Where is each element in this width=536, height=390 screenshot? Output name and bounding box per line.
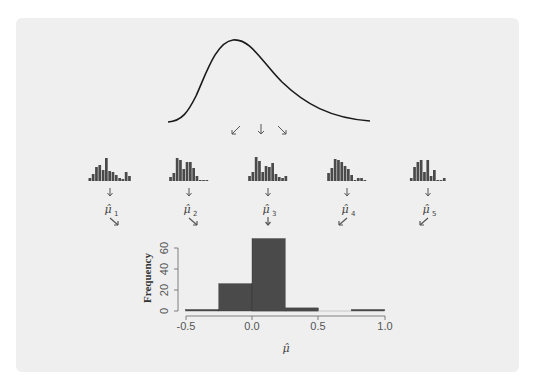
estimate-label: μ̂ xyxy=(341,203,348,216)
arrow-down-right-icon xyxy=(110,218,118,225)
arrow-down-icon xyxy=(266,217,271,225)
arrow-down-right-icon xyxy=(278,126,286,134)
sample-histogram xyxy=(410,160,446,181)
bar xyxy=(92,174,95,181)
bar xyxy=(199,180,202,181)
sample-5: μ̂5 xyxy=(410,160,446,225)
estimate-subscript: 3 xyxy=(272,210,276,218)
bar xyxy=(95,167,98,181)
estimate-subscript: 1 xyxy=(114,210,118,218)
y-tick-labels: 0 20 40 60 xyxy=(158,242,170,314)
bar xyxy=(440,180,443,181)
bar xyxy=(122,179,125,181)
bar xyxy=(179,160,182,181)
population-arrows xyxy=(232,124,286,134)
x-axis-label: μ̂ xyxy=(282,342,289,355)
bar xyxy=(364,180,367,181)
bar xyxy=(268,167,271,181)
bar xyxy=(186,162,189,181)
histogram-bar xyxy=(352,310,385,312)
bar xyxy=(261,172,264,181)
bar xyxy=(337,160,340,181)
y-axis-label: Frequency xyxy=(141,253,153,303)
sample-2: μ̂2 xyxy=(169,158,208,225)
histogram-bar xyxy=(285,308,318,311)
bar xyxy=(252,172,255,181)
bar xyxy=(105,158,108,181)
y-tick-40: 40 xyxy=(158,263,170,275)
bar xyxy=(202,180,205,181)
sample-histogram xyxy=(327,159,366,181)
bar xyxy=(115,175,118,181)
bar xyxy=(327,173,330,181)
histogram-bar xyxy=(252,239,285,312)
sampling-distribution-diagram: μ̂1μ̂2μ̂3μ̂4μ̂5 0 20 40 60 Frequency -0.… xyxy=(0,0,536,390)
bar xyxy=(357,178,360,181)
x-tick-0.5: 0.5 xyxy=(310,320,325,332)
x-tick-0.0: 0.0 xyxy=(244,320,259,332)
bar xyxy=(410,178,413,181)
estimate-subscript: 4 xyxy=(351,210,356,218)
histogram-bar xyxy=(219,284,252,311)
bar xyxy=(331,168,334,181)
bar xyxy=(285,176,288,181)
sample-3: μ̂3 xyxy=(248,157,287,225)
bar xyxy=(360,178,363,181)
bar xyxy=(265,166,268,181)
bar xyxy=(255,157,258,181)
x-axis xyxy=(186,316,385,320)
sample-1: μ̂1 xyxy=(89,158,131,225)
arrow-down-icon xyxy=(187,188,192,196)
bar xyxy=(112,172,115,181)
arrow-down-left-icon xyxy=(339,218,347,225)
y-tick-0: 0 xyxy=(158,308,170,314)
bar xyxy=(433,170,436,181)
estimate-label: μ̂ xyxy=(262,203,269,216)
sample-histogram xyxy=(169,158,208,181)
arrow-down-right-icon xyxy=(189,218,197,225)
sample-histogram xyxy=(248,157,287,181)
bar xyxy=(281,178,284,181)
histogram-bar xyxy=(186,310,219,312)
bar xyxy=(169,177,172,181)
x-tick-1.0: 1.0 xyxy=(377,320,392,332)
bar xyxy=(271,163,274,181)
bar xyxy=(196,176,199,181)
sample-4: μ̂4 xyxy=(327,159,366,225)
bar xyxy=(192,168,195,181)
arrow-down-icon xyxy=(345,188,350,196)
bar xyxy=(443,178,446,181)
arrow-down-left-icon xyxy=(420,218,428,225)
bar xyxy=(189,162,192,181)
bar xyxy=(118,178,121,181)
bootstrap-samples: μ̂1μ̂2μ̂3μ̂4μ̂5 xyxy=(89,157,446,225)
bar xyxy=(176,158,179,181)
bar xyxy=(248,176,251,181)
bar xyxy=(128,176,131,181)
arrow-down-left-icon xyxy=(232,126,240,134)
bar xyxy=(275,174,278,181)
estimates-histogram xyxy=(186,239,385,312)
estimate-subscript: 5 xyxy=(432,210,436,218)
bar xyxy=(278,177,281,181)
bar xyxy=(423,172,426,181)
bar xyxy=(354,180,357,181)
arrow-down-icon xyxy=(108,188,113,196)
estimate-label: μ̂ xyxy=(104,203,111,216)
bar xyxy=(417,162,420,181)
x-tick--0.5: -0.5 xyxy=(177,320,196,332)
bar xyxy=(347,169,350,181)
bar xyxy=(206,180,209,181)
bar xyxy=(420,160,423,181)
bar xyxy=(350,175,353,181)
arrow-down-icon xyxy=(426,188,431,196)
bar xyxy=(344,166,347,181)
x-tick-labels: -0.5 0.0 0.5 1.0 xyxy=(177,320,393,332)
bar xyxy=(340,162,343,181)
estimate-subscript: 2 xyxy=(193,210,197,218)
estimate-label: μ̂ xyxy=(422,203,429,216)
arrow-down-icon xyxy=(266,188,271,196)
bar xyxy=(98,165,101,181)
sample-histogram xyxy=(89,158,131,181)
bar xyxy=(436,180,439,181)
